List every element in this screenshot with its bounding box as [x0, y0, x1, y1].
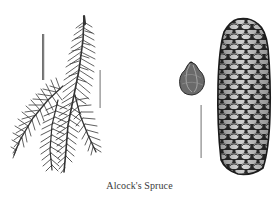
- caption: Alcock's Spruce: [0, 180, 279, 191]
- botanical-plate: [0, 0, 279, 204]
- seed-icon: [180, 62, 205, 96]
- scale-bar-icon: [100, 70, 101, 108]
- pine-cone-icon: [218, 19, 270, 175]
- spruce-branch-icon: [11, 16, 101, 173]
- scale-bar-icon: [201, 105, 202, 158]
- scale-bar-icon: [42, 34, 44, 80]
